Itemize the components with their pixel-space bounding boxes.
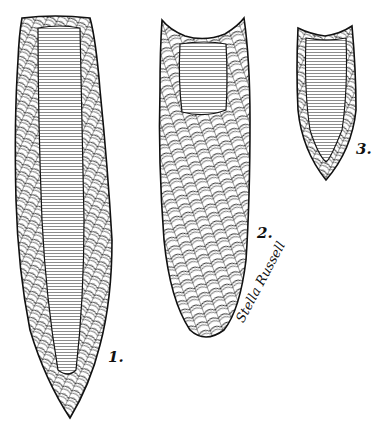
point-2-label: 2. (257, 224, 273, 242)
point-2-drawing (160, 18, 251, 337)
point-1-label: 1. (108, 348, 124, 366)
illustration-canvas: 1. 2. 3. Stella Russell (0, 0, 383, 427)
point-1-drawing (15, 16, 112, 418)
point-3-label: 3. (356, 140, 372, 158)
projectile-points-drawing (0, 0, 383, 427)
point-3-drawing (297, 26, 356, 180)
